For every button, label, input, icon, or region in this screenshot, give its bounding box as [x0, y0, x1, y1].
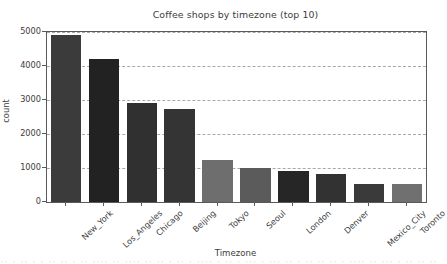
x-tick-mark [217, 202, 218, 206]
gridline [47, 32, 426, 33]
bar [354, 184, 384, 202]
plot-area [46, 31, 427, 203]
y-axis-tick-labels: 010002000300040005000 [0, 0, 41, 264]
chart-title: Coffee shops by timezone (top 10) [46, 9, 425, 20]
x-tick-mark [103, 202, 104, 206]
y-tick-label: 3000 [20, 94, 41, 104]
x-tick-label: London [304, 208, 333, 236]
x-tick-label: Seoul [265, 208, 288, 231]
x-tick-mark [330, 202, 331, 206]
y-tick-mark [42, 65, 46, 66]
bar [127, 103, 157, 202]
x-tick-mark [65, 202, 66, 206]
x-tick-label: Beijing [190, 208, 217, 234]
bar [89, 59, 119, 202]
bar [240, 168, 270, 202]
x-tick-mark [254, 202, 255, 206]
bar [316, 174, 346, 202]
y-tick-label: 0 [36, 196, 41, 206]
y-tick-mark [42, 201, 46, 202]
bar [278, 171, 308, 202]
x-tick-mark [406, 202, 407, 206]
y-tick-mark [42, 99, 46, 100]
plot-inner [47, 32, 426, 202]
y-tick-label: 2000 [20, 128, 41, 138]
x-tick-mark [368, 202, 369, 206]
x-tick-label: New_York [79, 208, 114, 242]
x-tick-mark [179, 202, 180, 206]
bar [164, 109, 194, 202]
x-tick-mark [292, 202, 293, 206]
bar [51, 35, 81, 202]
y-tick-mark [42, 31, 46, 32]
x-tick-label: Denver [342, 208, 371, 236]
bar [392, 184, 422, 202]
y-tick-label: 5000 [20, 26, 41, 36]
x-tick-mark [141, 202, 142, 206]
bar [202, 160, 232, 202]
y-tick-mark [42, 167, 46, 168]
y-tick-mark [42, 133, 46, 134]
bottom-cutoff-artifact: ·· · ·· · · ·· ·· · ·· ···· ·· ···· ·· ·… [0, 258, 438, 264]
x-tick-label: Tokyo [227, 208, 251, 231]
x-axis-label: Timezone [46, 248, 425, 258]
y-tick-label: 1000 [20, 162, 41, 172]
y-tick-label: 4000 [20, 60, 41, 70]
